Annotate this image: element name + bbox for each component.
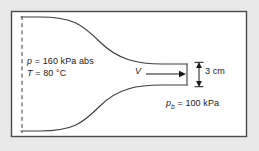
exit-diameter-label: 3 cm xyxy=(205,66,225,77)
inlet-temperature-label: T = 80 °C xyxy=(27,68,66,79)
back-pressure-subscript: b xyxy=(171,103,175,110)
inlet-pressure-value: = 160 kPa abs xyxy=(35,56,94,66)
velocity-label: V xyxy=(135,66,141,77)
back-pressure-label: pb = 100 kPa xyxy=(166,98,219,112)
inlet-temperature-symbol: T xyxy=(27,68,33,78)
inlet-temperature-value: = 80 °C xyxy=(35,68,66,78)
nozzle-figure: p = 160 kPa abs T = 80 °C V 3 cm pb = 10… xyxy=(0,0,259,151)
inlet-pressure-label: p = 160 kPa abs xyxy=(27,56,94,67)
back-pressure-value: = 100 kPa xyxy=(177,98,219,108)
inlet-pressure-symbol: p xyxy=(27,56,32,66)
